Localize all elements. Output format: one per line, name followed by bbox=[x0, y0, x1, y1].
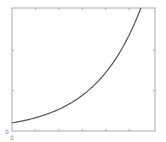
y-tick-label-0: 0 bbox=[5, 128, 9, 135]
x-tick-label-0: 0 bbox=[10, 134, 14, 141]
exponential-line-chart: 0 0 bbox=[0, 0, 166, 142]
